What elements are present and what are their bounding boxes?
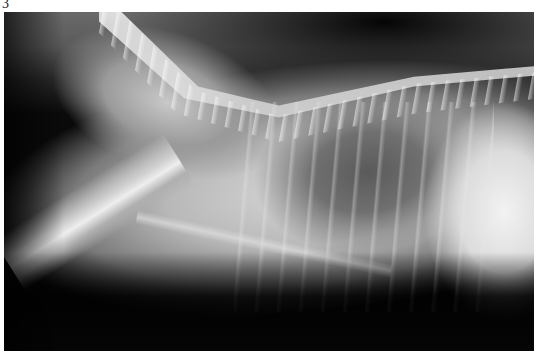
figure-label: 3 [2,0,9,11]
bottom-shadow [4,252,534,351]
radiograph-image [4,12,534,351]
left-shadow [4,12,64,351]
